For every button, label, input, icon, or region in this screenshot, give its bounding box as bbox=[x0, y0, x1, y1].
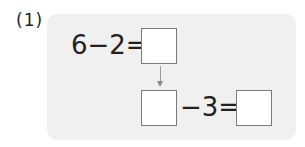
second-equation-text: −3= bbox=[180, 92, 240, 122]
carry-down-arrow-line bbox=[160, 66, 161, 82]
second-answer-box[interactable] bbox=[236, 90, 272, 126]
carried-value-box[interactable] bbox=[141, 90, 177, 126]
first-equation-text: 6−2= bbox=[71, 30, 148, 60]
problem-number-label: (1) bbox=[16, 10, 43, 30]
arrow-down-icon bbox=[157, 81, 163, 87]
first-answer-box[interactable] bbox=[141, 28, 177, 64]
